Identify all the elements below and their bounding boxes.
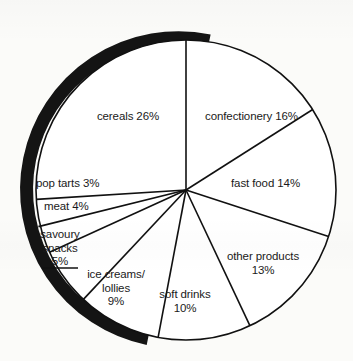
slice-label-pop-tarts: pop tarts 3% [36,177,140,191]
slice-label-other-products: other products 13% [207,250,319,277]
slice-label-cereals: cereals 26% [74,110,182,124]
slice-label-meat: meat 4% [44,200,124,214]
slice-label-savoury-snacks: savoury snacks 5% [30,228,90,269]
slice-label-ice-creams: ice creams/ lollies 9% [75,268,157,309]
pie-chart-figure: cereals 26% confectionery 16% fast food … [0,0,353,361]
slice-label-confectionery: confectionery 16% [205,110,331,124]
slice-label-fast-food: fast food 14% [231,177,335,191]
